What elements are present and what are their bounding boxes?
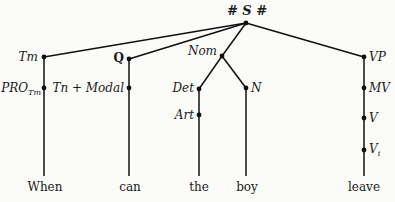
node-label-vi: Vi [369, 143, 380, 158]
node-dot-art [197, 113, 202, 118]
word-boy: boy [236, 181, 258, 193]
node-label-art: Art [175, 109, 194, 121]
node-dot-vp [362, 55, 367, 60]
pro-text: PRO [1, 81, 28, 95]
node-dot-s [244, 21, 249, 26]
node-dot-nom [220, 54, 225, 59]
node-label-vp: VP [369, 51, 386, 63]
word-when: When [28, 181, 63, 193]
node-dot-n [244, 86, 249, 91]
node-label-q: Q [114, 52, 124, 64]
node-dot-q [127, 57, 132, 62]
root-label: # S # [227, 4, 267, 17]
node-dot-mv [362, 86, 367, 91]
node-dot-vi [362, 148, 367, 153]
node-label-v: V [369, 112, 378, 124]
pro-subscript: Tm [28, 88, 41, 97]
node-dot-det [197, 87, 202, 92]
node-label-tm: Tm [19, 51, 38, 63]
node-dot-v [362, 116, 367, 121]
edge-s-vp [246, 23, 364, 57]
node-dot-pro [42, 86, 47, 91]
node-label-nom: Nom [188, 45, 217, 57]
edge-nom-n [222, 56, 246, 88]
node-label-mv: MV [369, 82, 390, 94]
word-leave: leave [348, 181, 380, 193]
edge-s-nom [222, 23, 246, 56]
edge-nom-det [199, 56, 222, 89]
node-label-tn-modal: Tn + Modal [52, 82, 124, 94]
node-label-pro: PROTm [1, 82, 41, 97]
word-the: the [189, 181, 209, 193]
word-can: can [119, 181, 141, 193]
syntax-tree-diagram: # S # Tm Q Nom VP PROTm Tn + Modal Det N… [0, 0, 395, 202]
node-label-n: N [251, 82, 262, 94]
node-label-det: Det [172, 82, 194, 94]
vi-subscript: i [378, 149, 381, 158]
vi-text: V [369, 142, 378, 156]
tree-edges [0, 0, 395, 202]
node-dot-tm [42, 55, 47, 60]
node-dot-tn-modal [127, 86, 132, 91]
